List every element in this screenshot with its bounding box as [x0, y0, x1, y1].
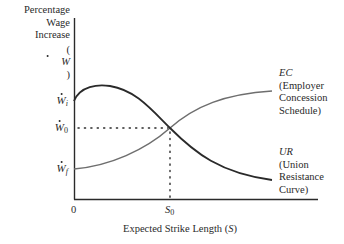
y-axis-title: Percentage Wage Increase (W) [24, 4, 70, 81]
origin-label: 0 [71, 204, 76, 217]
x-axis-title-close: ) [234, 223, 238, 234]
w-dot-symbol: W [24, 56, 70, 69]
tick-subscript: i [66, 99, 68, 108]
y-axis-title-line-2: Wage [24, 17, 70, 30]
w-dot-symbol: W [55, 121, 64, 133]
ur-desc-line-3: Curve) [279, 184, 324, 197]
x-tick-s0: S0 [165, 204, 174, 220]
ur-desc-line-1: (Union [279, 159, 324, 172]
bargaining-diagram: Percentage Wage Increase (W) Wi W0 Wf EC… [0, 0, 344, 244]
ur-abbr: UR [279, 146, 324, 159]
tick-subscript: 0 [170, 208, 174, 217]
y-tick-wi: Wi [44, 94, 68, 108]
tick-subscript: 0 [64, 126, 68, 135]
ec-desc-line-3: Schedule) [279, 105, 327, 118]
ur-desc-line-2: Resistance [279, 171, 324, 184]
y-axis-title-line-3: Increase [24, 29, 70, 42]
ec-desc-line-1: (Employer [279, 80, 327, 93]
ur-curve [74, 85, 272, 180]
y-axis-symbol: (W) [24, 44, 70, 82]
w-dot-symbol: W [57, 162, 66, 174]
y-tick-wf: Wf [44, 162, 68, 176]
y-axis-title-line-1: Percentage [24, 4, 70, 17]
ur-curve-label: UR (Union Resistance Curve) [279, 146, 324, 196]
ec-desc-line-2: Concession [279, 92, 327, 105]
ec-abbr: EC [279, 67, 327, 80]
tick-subscript: f [66, 167, 68, 176]
x-axis-title-text: Expected Strike Length ( [123, 223, 228, 234]
w-dot-symbol: W [57, 94, 66, 106]
paren-close: ) [24, 69, 70, 82]
ec-curve-label: EC (Employer Concession Schedule) [279, 67, 327, 117]
y-tick-w0: W0 [44, 121, 68, 135]
x-axis-title: Expected Strike Length (S) [110, 223, 250, 234]
